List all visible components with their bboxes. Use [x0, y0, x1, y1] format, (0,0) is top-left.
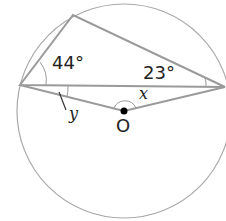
diagram-shapes [0, 0, 226, 221]
angle-arc-44 [40, 62, 46, 85]
center-point [121, 108, 128, 115]
center-label: O [116, 115, 130, 136]
angle-label-44: 44° [52, 52, 84, 73]
angle-label-23: 23° [143, 62, 175, 83]
angle-arc-y [67, 86, 68, 97]
radii-lines [20, 85, 225, 111]
variable-x: x [139, 84, 148, 103]
variable-y: y [69, 104, 78, 123]
circle-geometry-diagram: 44° 23° x y O [0, 0, 226, 221]
angle-arc-x [114, 101, 136, 108]
inscribed-triangle [20, 15, 225, 87]
angle-arc-23 [205, 78, 206, 86]
